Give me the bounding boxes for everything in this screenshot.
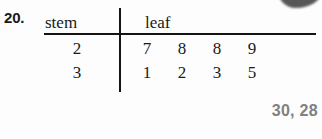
table-row: 3 1 2 3 5 [44, 61, 316, 85]
leaf-value: 3 [209, 61, 225, 85]
leaf-value: 5 [244, 61, 260, 85]
column-header-leaf: leaf [145, 14, 170, 31]
table-row: 2 7 8 8 9 [44, 37, 316, 61]
leaf-value: 1 [139, 61, 155, 85]
stem-and-leaf-plot: stem leaf 2 7 8 8 9 3 1 2 3 5 [44, 6, 316, 96]
leaf-value: 2 [174, 61, 190, 85]
leaf-value: 7 [139, 37, 155, 61]
header-divider-rule [44, 33, 316, 35]
stem-value: 2 [44, 37, 110, 61]
column-header-stem: stem [45, 14, 77, 31]
leaf-value: 8 [174, 37, 190, 61]
answer-text: 30, 28 [272, 102, 318, 120]
leaf-value: 9 [244, 37, 260, 61]
leaf-value: 8 [209, 37, 225, 61]
exercise-number: 20. [4, 9, 24, 26]
stem-value: 3 [44, 61, 110, 85]
